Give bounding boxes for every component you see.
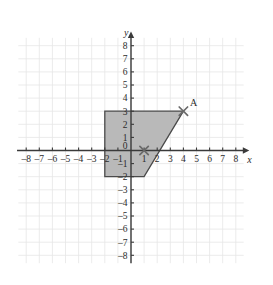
- y-tick-label: 4: [123, 93, 128, 103]
- x-tick-label: –5: [60, 154, 71, 164]
- y-axis-label: y: [123, 27, 129, 38]
- x-tick-label: 1: [142, 154, 147, 164]
- y-tick-label: –3: [117, 185, 128, 195]
- x-axis-label: x: [246, 154, 252, 165]
- coordinate-plane-svg: –8–7–6–5–4–3–2–112345678 87654321–1–2–3–…: [0, 0, 273, 285]
- x-tick-label: –3: [86, 154, 97, 164]
- x-tick-label: 8: [233, 154, 238, 164]
- x-tick-label: 2: [155, 154, 160, 164]
- y-tick-label: 7: [123, 54, 128, 64]
- coordinate-grid-figure: –8–7–6–5–4–3–2–112345678 87654321–1–2–3–…: [0, 0, 273, 285]
- y-tick-label: 8: [123, 41, 128, 51]
- x-tick-label: –4: [73, 154, 84, 164]
- y-tick-label: 3: [123, 107, 128, 117]
- y-tick-label: 2: [123, 120, 128, 130]
- point-label-a: A: [190, 97, 198, 108]
- x-tick-label: 5: [194, 154, 199, 164]
- x-tick-label: –7: [34, 154, 45, 164]
- x-tick-label: –2: [99, 154, 110, 164]
- y-tick-label: 5: [123, 80, 128, 90]
- y-tick-label: –8: [117, 251, 128, 261]
- x-tick-label: 4: [181, 154, 186, 164]
- x-tick-label: 3: [168, 154, 173, 164]
- x-tick-label: 7: [220, 154, 225, 164]
- y-tick-label: –2: [117, 172, 128, 182]
- y-tick-label: –5: [117, 211, 128, 221]
- y-tick-label: –4: [117, 198, 128, 208]
- y-tick-label: –1: [117, 159, 128, 169]
- y-tick-label: –7: [117, 238, 128, 248]
- x-tick-label: –8: [20, 154, 31, 164]
- origin-label: 0: [123, 141, 128, 151]
- x-tick-label: 6: [207, 154, 212, 164]
- x-tick-label: –6: [47, 154, 58, 164]
- y-tick-label: 6: [123, 67, 128, 77]
- y-tick-label: –6: [117, 224, 128, 234]
